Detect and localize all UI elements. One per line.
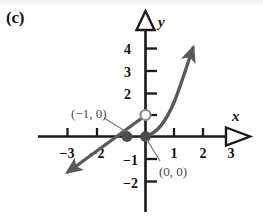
x-tick-label-neg3: −3 — [60, 146, 75, 161]
annotation-labels-group: (−1, 0) (0, 0) — [71, 106, 187, 179]
y-axis-arrowhead-icon — [137, 11, 155, 30]
y-tick-label-2: 2 — [124, 87, 131, 102]
annotation-label-0-0: (0, 0) — [159, 164, 187, 179]
closed-point-marker-neg1-0 — [122, 131, 133, 142]
x-axis-label: x — [231, 108, 240, 124]
y-tick-label-neg1: −1 — [123, 153, 138, 168]
y-tick-label-4: 4 — [124, 42, 131, 57]
graph-canvas: y x 4 3 2 −1 −2 −3 −2 — [0, 0, 263, 217]
open-point-marker-0-1 — [141, 110, 151, 120]
x-tick-label-2: 2 — [200, 146, 207, 161]
x-tick-label-1: 1 — [171, 146, 178, 161]
y-tick-label-3: 3 — [124, 65, 131, 80]
annotation-label-neg1-0: (−1, 0) — [71, 106, 107, 121]
leader-line-neg1-0 — [104, 118, 125, 131]
closed-point-marker-0-0 — [140, 131, 151, 142]
y-tick-label-neg2: −2 — [123, 176, 138, 191]
figure-panel: (c) y x — [0, 0, 263, 217]
x-axis-arrowhead-icon — [226, 128, 250, 146]
exponential-branch-path — [146, 48, 193, 136]
y-axis-label: y — [156, 14, 165, 30]
x-tick-label-3: 3 — [228, 146, 235, 161]
